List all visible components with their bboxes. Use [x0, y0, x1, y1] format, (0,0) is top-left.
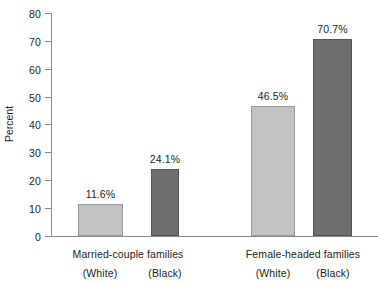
y-tick-80: 80 [45, 13, 51, 14]
y-tick-30: 30 [45, 152, 51, 153]
bar-married-couple-white[interactable] [78, 204, 123, 236]
y-tick-label-0: 0 [35, 231, 41, 243]
y-tick-label-60: 60 [29, 64, 41, 76]
y-tick-label-70: 70 [29, 36, 41, 48]
bar-group-female-white: 46.5% [251, 12, 295, 236]
bar-chart: Percent 80 70 60 50 40 30 20 10 0 11.6% … [0, 0, 378, 284]
y-axis-title-text: Percent [3, 106, 15, 142]
y-tick-20: 20 [45, 180, 51, 181]
bar-value-female-headed-black: 70.7% [317, 23, 347, 35]
bar-female-headed-black[interactable] [313, 39, 352, 236]
y-tick-label-30: 30 [29, 147, 41, 159]
y-tick-label-40: 40 [29, 119, 41, 131]
bar-group-female-black: 70.7% [313, 12, 352, 236]
y-tick-label-80: 80 [29, 8, 41, 20]
y-tick-40: 40 [45, 124, 51, 125]
x-group-label-female-headed: Female-headed families [232, 248, 374, 260]
y-axis-line [51, 13, 52, 237]
bar-value-female-headed-white: 46.5% [258, 90, 288, 102]
y-tick-50: 50 [45, 97, 51, 98]
bar-group-married-white: 11.6% [78, 12, 123, 236]
bar-group-married-black: 24.1% [151, 12, 179, 236]
y-tick-label-20: 20 [29, 175, 41, 187]
x-sub-label-married-white: (White) [70, 267, 130, 279]
x-sub-label-female-white: (White) [243, 267, 303, 279]
y-tick-60: 60 [45, 69, 51, 70]
y-axis-title: Percent [2, 94, 16, 154]
y-tick-70: 70 [45, 41, 51, 42]
y-tick-label-10: 10 [29, 203, 41, 215]
y-tick-0: 0 [45, 236, 51, 237]
y-tick-10: 10 [45, 208, 51, 209]
bar-female-headed-white[interactable] [251, 106, 295, 236]
x-sub-label-married-black: (Black) [135, 267, 195, 279]
x-group-label-married-couple: Married-couple families [58, 248, 198, 260]
x-sub-label-female-black: (Black) [303, 267, 363, 279]
x-axis-line [51, 236, 378, 237]
bar-value-married-couple-white: 11.6% [86, 188, 116, 200]
bar-married-couple-black[interactable] [151, 169, 179, 236]
bar-value-married-couple-black: 24.1% [150, 153, 180, 165]
y-tick-label-50: 50 [29, 92, 41, 104]
